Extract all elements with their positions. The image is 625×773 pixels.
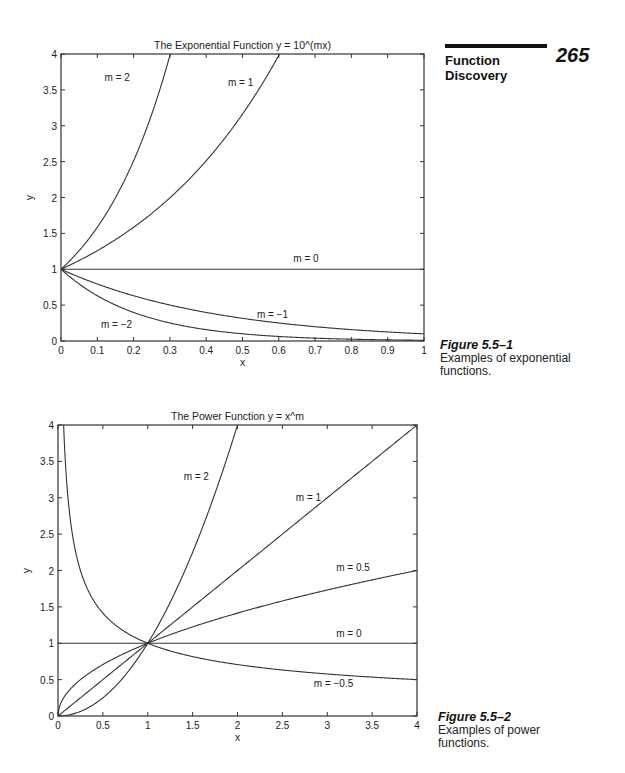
y-tick-label: 0.5 <box>43 300 57 311</box>
y-tick-label: 1 <box>48 638 54 649</box>
series-label: m = 2 <box>184 471 210 482</box>
x-tick-label: 3.5 <box>365 720 379 731</box>
x-tick-label: 0.5 <box>96 720 110 731</box>
y-tick-label: 0.5 <box>40 675 54 686</box>
series-label: m = 2 <box>105 72 131 83</box>
x-tick-label: 0.3 <box>163 345 177 356</box>
series-label: m = 0 <box>293 253 319 264</box>
x-tick-label: 0.9 <box>381 345 395 356</box>
y-tick-label: 0 <box>48 711 54 722</box>
y-tick-label: 2 <box>48 566 54 577</box>
y-tick-label: 2 <box>51 193 57 204</box>
series-label: m = 0.5 <box>336 562 370 573</box>
series-label: m = −1 <box>257 309 289 320</box>
x-tick-label: 0 <box>55 720 61 731</box>
y-tick-label: 2.5 <box>43 157 57 168</box>
chart-title: The Exponential Function y = 10^(mx) <box>154 39 331 51</box>
x-tick-label: 1 <box>145 720 151 731</box>
x-tick-label: 2.5 <box>275 720 289 731</box>
y-axis-label: y <box>23 194 35 200</box>
x-tick-label: 0.1 <box>90 345 104 356</box>
chart-title: The Power Function y = x^m <box>171 410 304 422</box>
x-tick-label: 0.2 <box>127 345 141 356</box>
series-label: m = 1 <box>296 492 322 503</box>
x-tick-label: 0.7 <box>308 345 322 356</box>
series-label: m = −0.5 <box>314 678 354 689</box>
exponential-chart: 00.10.20.30.40.50.60.70.80.9100.511.522.… <box>0 0 625 773</box>
x-axis-label: x <box>235 731 241 743</box>
y-tick-label: 3.5 <box>43 85 57 96</box>
power-plot: 00.511.522.533.5400.511.522.533.54The Po… <box>20 0 420 743</box>
series-label: m = 1 <box>228 77 254 88</box>
y-tick-label: 3.5 <box>40 456 54 467</box>
x-axis-label: x <box>240 356 246 368</box>
series-line <box>58 0 417 716</box>
x-tick-label: 0.8 <box>344 345 358 356</box>
x-tick-label: 1.5 <box>186 720 200 731</box>
y-tick-label: 4 <box>51 49 57 60</box>
y-tick-label: 3 <box>48 493 54 504</box>
series-label: m = −2 <box>101 319 133 330</box>
x-tick-label: 0.6 <box>272 345 286 356</box>
x-tick-label: 0.4 <box>199 345 213 356</box>
x-tick-label: 0.5 <box>236 345 250 356</box>
y-tick-label: 4 <box>48 420 54 431</box>
y-axis-label: y <box>20 567 32 573</box>
y-tick-label: 3 <box>51 121 57 132</box>
y-tick-label: 2.5 <box>40 529 54 540</box>
x-tick-label: 0 <box>58 345 64 356</box>
y-tick-label: 1.5 <box>43 228 57 239</box>
exponential-plot: 00.10.20.30.40.50.60.70.80.9100.511.522.… <box>23 0 427 368</box>
x-tick-label: 4 <box>414 720 420 731</box>
y-tick-label: 1 <box>51 264 57 275</box>
y-tick-label: 1.5 <box>40 602 54 613</box>
x-tick-label: 2 <box>235 720 241 731</box>
x-tick-label: 1 <box>421 345 427 356</box>
y-tick-label: 0 <box>51 336 57 347</box>
series-label: m = 0 <box>336 628 362 639</box>
x-tick-label: 3 <box>324 720 330 731</box>
